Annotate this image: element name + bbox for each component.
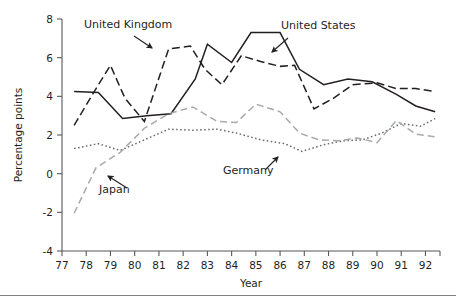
y-tick-label: -4 <box>43 245 54 257</box>
footer-divider <box>0 295 456 296</box>
x-tick-label: 82 <box>176 259 189 271</box>
y-tick-label: 8 <box>46 13 53 25</box>
x-tick-label: 88 <box>322 259 335 271</box>
x-tick-label: 87 <box>298 259 311 271</box>
x-tick-label: 84 <box>225 259 239 271</box>
series-line-japan <box>74 104 435 213</box>
annotations: United KingdomUnited StatesGermanyJapan <box>84 18 356 196</box>
y-tick-label: 6 <box>46 52 53 64</box>
x-tick-label: 77 <box>55 259 68 271</box>
annotation-label-germany: Germany <box>223 164 274 177</box>
x-tick-label: 79 <box>104 259 117 271</box>
x-tick-label: 85 <box>249 259 262 271</box>
x-tick-label: 81 <box>152 259 165 271</box>
y-tick-label: 0 <box>46 168 53 180</box>
y-tick-label: 4 <box>46 90 53 102</box>
x-tick-label: 91 <box>395 259 408 271</box>
chart-figure: -4-2024687778798081828384858687888990919… <box>0 0 456 301</box>
y-axis-ticks: -4-202468 <box>43 13 62 257</box>
x-tick-label: 78 <box>80 259 93 271</box>
axes <box>62 19 440 251</box>
annotation-label-japan: Japan <box>98 183 130 196</box>
line-chart: -4-2024687778798081828384858687888990919… <box>0 0 456 301</box>
annotation-label-united-kingdom: United Kingdom <box>84 18 172 31</box>
annotation-arrow-united-kingdom <box>134 36 152 48</box>
x-axis-ticks: 77787980818283848586878889909192 <box>55 251 440 271</box>
series-line-united-states <box>74 33 435 119</box>
x-axis-title: Year <box>239 277 263 289</box>
annotation-label-united-states: United States <box>281 19 356 32</box>
axis-lines <box>62 19 440 251</box>
x-tick-label: 83 <box>201 259 214 271</box>
annotation-arrow-united-states <box>272 38 288 52</box>
x-tick-label: 89 <box>346 259 359 271</box>
x-tick-label: 80 <box>128 259 141 271</box>
x-tick-label: 90 <box>370 259 383 271</box>
y-tick-label: 2 <box>46 129 53 141</box>
x-tick-label: 92 <box>419 259 432 271</box>
series-line-germany <box>74 119 435 152</box>
x-tick-label: 86 <box>273 259 287 271</box>
y-axis-title: Percentage points <box>12 88 24 183</box>
y-tick-label: -2 <box>43 206 53 218</box>
